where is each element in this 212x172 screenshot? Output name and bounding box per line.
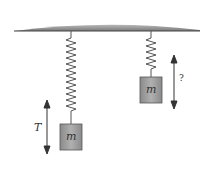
left-mass-label: m	[66, 130, 76, 143]
ceiling	[14, 25, 200, 31]
diagram-canvas	[0, 0, 212, 172]
right-period-arrow-icon	[171, 55, 177, 109]
left-period-arrow-icon	[44, 100, 50, 154]
right-spring	[146, 31, 156, 77]
right-period-label: ?	[179, 73, 184, 83]
right-mass-label: m	[146, 83, 156, 96]
left-period-label: T	[34, 121, 41, 134]
left-spring	[66, 31, 76, 124]
